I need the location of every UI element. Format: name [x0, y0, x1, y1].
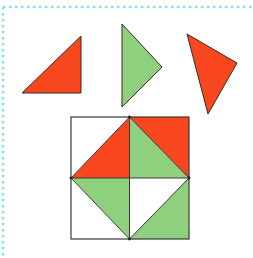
- vertex-dot: [128, 116, 131, 119]
- vertex-dot: [188, 177, 191, 180]
- tiled-square: [70, 116, 191, 241]
- red-triangle-piece[interactable]: [187, 34, 237, 114]
- vertex-dot: [70, 177, 73, 180]
- red-triangle-piece[interactable]: [22, 36, 81, 93]
- green-triangle-piece[interactable]: [122, 24, 162, 107]
- vertex-dot: [128, 238, 131, 241]
- puzzle-diagram: [0, 0, 253, 258]
